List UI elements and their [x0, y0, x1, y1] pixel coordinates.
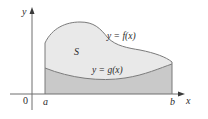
area-between-curves-diagram: y x 0 a b S y = f(x) y = g(x): [0, 0, 208, 119]
y-axis-label: y: [21, 6, 27, 17]
region-s-label: S: [74, 46, 79, 57]
x-axis-arrow-icon: [178, 92, 185, 97]
y-axis-arrow-icon: [30, 7, 35, 14]
b-label: b: [170, 96, 175, 107]
g-curve-label: y = g(x): [91, 65, 123, 76]
a-label: a: [43, 96, 48, 107]
x-axis-label: x: [185, 95, 191, 106]
f-curve-label: y = f(x): [106, 31, 136, 42]
origin-label: 0: [23, 95, 28, 106]
